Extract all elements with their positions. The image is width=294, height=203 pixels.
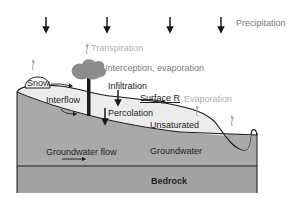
arrow-up-icon: [87, 45, 88, 54]
snow-label: Snow: [27, 79, 50, 88]
percolation-label: Percolation: [108, 109, 153, 118]
arrow-up-icon: [232, 117, 233, 126]
groundwater-label: Groundwater: [150, 147, 202, 156]
transpiration-label: Transpiration: [91, 44, 143, 53]
interflow-label: Interflow: [46, 96, 80, 105]
infiltration-label: Infiltration: [108, 82, 147, 91]
interception-label: Interception, evaporation: [105, 64, 204, 73]
groundwater-flow-label: Groundwater flow: [46, 148, 117, 157]
precipitation-arrows: [46, 17, 221, 30]
surface-runoff-label: Surface R: [140, 94, 180, 103]
bedrock-layer: [17, 166, 257, 193]
evaporation-label: Evaporation: [184, 95, 232, 104]
unsaturated-label: Unsaturated: [150, 121, 199, 130]
arrow-up-icon: [33, 61, 34, 70]
hydrologic-cycle-diagram: Precipitation Transpiration Interception…: [0, 0, 294, 203]
bedrock-label: Bedrock: [151, 177, 187, 186]
precipitation-label: Precipitation: [236, 19, 286, 28]
